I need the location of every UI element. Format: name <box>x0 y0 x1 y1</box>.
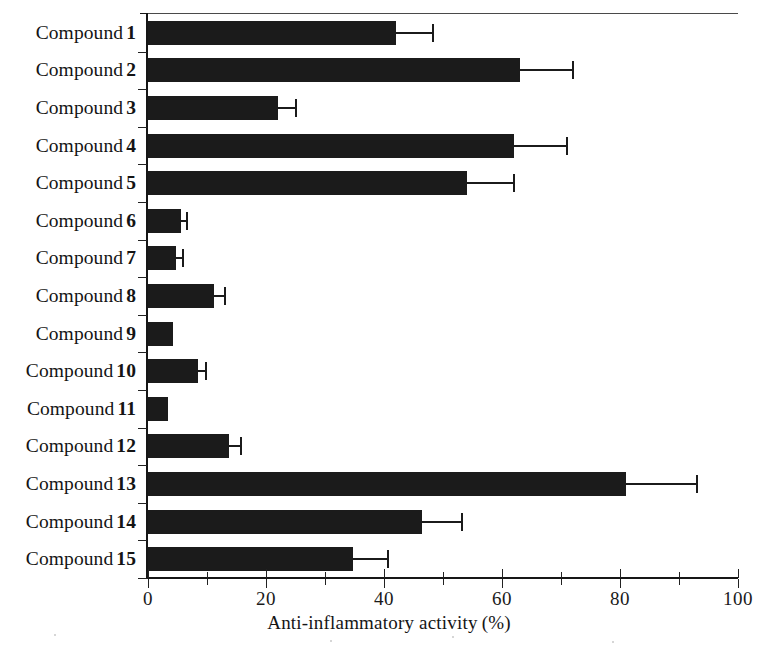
x-axis-tick-label: 0 <box>143 588 153 610</box>
error-bar-cap <box>513 174 515 192</box>
error-bar-line <box>467 182 514 184</box>
x-axis-tick-minor-upper <box>443 572 444 578</box>
category-label-number: 14 <box>116 511 136 532</box>
page-speckle <box>612 641 614 643</box>
category-label: Compound5 <box>36 172 136 194</box>
bar <box>148 96 278 120</box>
error-bar-line <box>626 483 697 485</box>
category-label-prefix: Compound <box>36 172 123 193</box>
y-axis-tick <box>138 352 147 353</box>
category-label-number: 6 <box>126 210 136 231</box>
error-bar-line <box>278 107 296 109</box>
category-label: Compound7 <box>36 247 136 269</box>
y-axis-tick <box>138 390 147 391</box>
plot-top-border <box>148 13 738 14</box>
error-bar-line <box>520 69 573 71</box>
error-bar-line <box>514 145 567 147</box>
bar <box>148 397 168 421</box>
bar <box>148 284 214 308</box>
category-label-prefix: Compound <box>36 323 123 344</box>
bar <box>148 171 467 195</box>
y-axis-tick <box>138 578 147 579</box>
x-axis-title-unit: (%) <box>482 612 511 633</box>
category-label-number: 13 <box>116 473 136 494</box>
x-axis-tick-minor-upper <box>679 572 680 578</box>
x-axis-tick-label: 20 <box>256 588 276 610</box>
category-label: Compound9 <box>36 323 136 345</box>
category-label: Compound1 <box>36 22 136 44</box>
bar <box>148 21 396 45</box>
category-label-prefix: Compound <box>36 247 123 268</box>
category-label-number: 1 <box>126 22 136 43</box>
category-label-prefix: Compound <box>26 473 113 494</box>
category-label-prefix: Compound <box>36 210 123 231</box>
category-label-prefix: Compound <box>36 135 123 156</box>
y-axis-tick <box>138 428 147 429</box>
y-axis-tick <box>138 465 147 466</box>
x-axis-tick-major <box>148 579 149 588</box>
x-axis-tick-major <box>384 579 385 588</box>
bar <box>148 359 198 383</box>
category-label: Compound4 <box>36 135 136 157</box>
page-speckle <box>330 640 332 642</box>
x-axis-tick-major <box>620 579 621 588</box>
y-axis-tick <box>138 503 147 504</box>
category-label-number: 7 <box>126 247 136 268</box>
x-axis-tick-upper <box>738 569 739 578</box>
category-label-number: 2 <box>126 59 136 80</box>
category-label: Compound15 <box>26 548 136 570</box>
error-bar-cap <box>572 61 574 79</box>
category-label-number: 8 <box>126 285 136 306</box>
x-axis-tick-label: 40 <box>374 588 394 610</box>
error-bar-line <box>353 558 387 560</box>
error-bar-cap <box>186 212 188 230</box>
category-label-prefix: Compound <box>27 398 114 419</box>
x-axis-tick-label: 100 <box>723 588 753 610</box>
bar <box>148 472 626 496</box>
x-axis-tick-label: 60 <box>492 588 512 610</box>
error-bar-cap <box>205 362 207 380</box>
category-label-number: 9 <box>126 323 136 344</box>
x-axis-title-text: Anti-inflammatory activity <box>267 612 477 633</box>
x-axis-tick-minor <box>207 579 208 585</box>
category-label-number: 12 <box>116 435 136 456</box>
error-bar-line <box>396 32 433 34</box>
bar <box>148 58 520 82</box>
y-axis-tick <box>138 164 147 165</box>
bar <box>148 322 173 346</box>
y-axis-tick <box>138 202 147 203</box>
y-axis-tick <box>138 52 147 53</box>
error-bar-cap <box>295 99 297 117</box>
x-axis-tick-minor <box>561 579 562 585</box>
y-axis-tick <box>138 240 147 241</box>
bar <box>148 209 181 233</box>
bar <box>148 434 229 458</box>
category-label-prefix: Compound <box>36 285 123 306</box>
x-axis-tick-major <box>266 579 267 588</box>
y-axis-tick <box>138 540 147 541</box>
error-bar-line <box>422 521 462 523</box>
category-label-prefix: Compound <box>36 97 123 118</box>
x-axis-tick-minor <box>679 579 680 585</box>
category-label: Compound2 <box>36 59 136 81</box>
bar <box>148 134 514 158</box>
error-bar-cap <box>224 287 226 305</box>
category-label-prefix: Compound <box>26 511 113 532</box>
x-axis-title: Anti-inflammatory activity(%) <box>0 612 778 634</box>
x-axis-tick-major <box>502 579 503 588</box>
x-axis-tick-major <box>738 579 739 588</box>
y-axis-tick <box>138 89 147 90</box>
category-label-prefix: Compound <box>26 548 113 569</box>
y-axis-tick <box>138 127 147 128</box>
category-label-number: 3 <box>126 97 136 118</box>
x-axis-tick-minor <box>325 579 326 585</box>
bar <box>148 246 176 270</box>
category-label: Compound3 <box>36 97 136 119</box>
x-axis-tick-label: 80 <box>610 588 630 610</box>
category-label-prefix: Compound <box>36 22 123 43</box>
category-label-prefix: Compound <box>26 435 113 456</box>
category-label-number: 10 <box>116 360 136 381</box>
category-label-number: 5 <box>126 172 136 193</box>
x-axis-tick-minor-upper <box>207 572 208 578</box>
x-axis-tick-upper <box>620 569 621 578</box>
